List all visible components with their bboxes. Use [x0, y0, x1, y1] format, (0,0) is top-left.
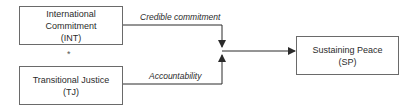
node-abbr: (SP): [339, 56, 357, 68]
node-title: Transitional Justice: [33, 74, 110, 86]
node-international-commitment: International Commitment (INT): [19, 6, 123, 45]
node-transitional-justice: Transitional Justice (TJ): [19, 66, 123, 105]
node-abbr: (INT): [61, 32, 82, 44]
interaction-operator: *: [67, 49, 71, 59]
edge-label-credible-commitment: Credible commitment: [140, 12, 220, 22]
node-title: International Commitment: [20, 8, 122, 32]
node-abbr: (TJ): [63, 86, 79, 98]
node-sustaining-peace: Sustaining Peace (SP): [296, 36, 399, 75]
node-title: Sustaining Peace: [312, 44, 382, 56]
edge-label-accountability: Accountability: [149, 71, 201, 81]
